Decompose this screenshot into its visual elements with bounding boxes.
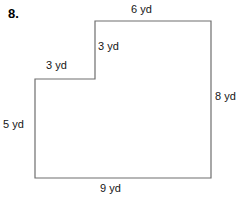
- dimension-label-right: 8 yd: [215, 90, 236, 103]
- l-shaped-polygon-outline: [35, 21, 211, 178]
- dimension-label-top: 6 yd: [131, 3, 152, 16]
- dimension-label-step-horizontal: 3 yd: [46, 59, 67, 72]
- l-shaped-polygon-svg: [0, 0, 245, 197]
- dimension-label-step-vertical: 3 yd: [98, 40, 119, 53]
- figure-container: 8. 6 yd 3 yd 3 yd 5 yd 8 yd 9 yd: [0, 0, 245, 197]
- dimension-label-left: 5 yd: [3, 118, 24, 131]
- dimension-label-bottom: 9 yd: [100, 182, 121, 195]
